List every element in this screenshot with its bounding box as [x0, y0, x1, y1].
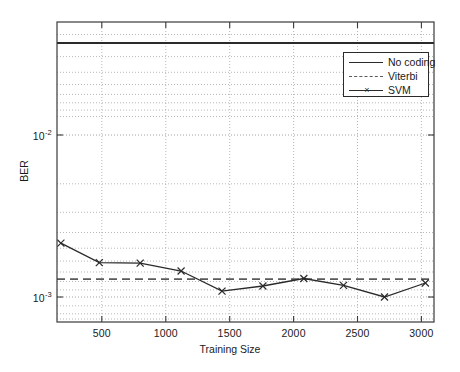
x-tick-label-1000: 1000 — [154, 327, 178, 339]
legend-label-svm: SVM — [388, 84, 411, 96]
legend-item-no-coding[interactable]: No coding — [344, 55, 428, 69]
y-tick-label-1e-3: 10-3 — [18, 290, 52, 304]
legend-swatch-no-coding — [349, 56, 383, 68]
legend-swatch-svm: × — [349, 84, 383, 96]
legend-marker-x-icon: × — [364, 87, 370, 93]
legend-item-svm[interactable]: × SVM — [344, 83, 428, 97]
legend-item-viterbi[interactable]: Viterbi — [344, 69, 428, 83]
y-tick-label-1e-2: 10-2 — [18, 128, 52, 142]
x-tick-label-2000: 2000 — [282, 327, 306, 339]
chart-legend[interactable]: No coding Viterbi × SVM — [343, 52, 429, 97]
x-tick-label-2500: 2500 — [345, 327, 369, 339]
x-axis-label: Training Size — [0, 343, 460, 355]
x-tick-label-1500: 1500 — [218, 327, 242, 339]
x-tick-label-500: 500 — [93, 327, 111, 339]
legend-swatch-viterbi — [349, 70, 383, 82]
legend-label-no-coding: No coding — [388, 56, 435, 68]
figure-canvas: 10-2 10-3 BER 500 1000 1500 2000 2500 30… — [0, 0, 460, 372]
y-axis-label: BER — [18, 141, 30, 201]
x-tick-label-3000: 3000 — [409, 327, 433, 339]
legend-label-viterbi: Viterbi — [388, 70, 418, 82]
